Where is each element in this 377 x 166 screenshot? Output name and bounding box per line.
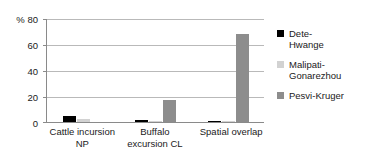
bar-dete-hwange-buffalo: [135, 120, 148, 122]
y-axis-label-0: 0: [33, 119, 38, 129]
y-axis-label-60: 60: [27, 41, 38, 51]
legend-item-pesvi-kruger: Pesvi-Kruger: [277, 90, 377, 101]
x-label-cattle-incursion-np: Cattle incursion NP: [46, 126, 119, 150]
x-label-buffalo-excursion-cl: Buffalo excursion CL: [119, 126, 192, 150]
bar-group-cattle-incursion-np: [47, 19, 120, 122]
legend-label-malipati-gonarezhou: Malipati- Gonarezhou: [289, 59, 341, 81]
bar-pesvi-kruger-overlap: [236, 34, 249, 122]
x-label-spatial-overlap: Spatial overlap: [191, 126, 271, 138]
bar-malipati-gonarezhou-buffalo: [149, 121, 162, 122]
bar-group-spatial-overlap: [192, 19, 265, 122]
bar-dete-hwange-overlap: [208, 121, 221, 122]
y-axis-label-20: 20: [27, 93, 38, 103]
bar-chart: % 80 60 40 20 0 Catt: [0, 0, 377, 166]
bar-dete-hwange-cattle: [63, 116, 76, 122]
legend-swatch-icon-dete-hwange: [277, 30, 284, 37]
legend-label-pesvi-kruger: Pesvi-Kruger: [289, 90, 344, 101]
y-axis-label-80: % 80: [16, 15, 38, 25]
legend-item-malipati-gonarezhou: Malipati- Gonarezhou: [277, 59, 377, 81]
legend-swatch-icon-malipati-gonarezhou: [277, 61, 284, 68]
bar-pesvi-kruger-buffalo: [163, 100, 176, 122]
y-axis-labels: % 80 60 40 20 0: [0, 0, 44, 166]
bar-malipati-gonarezhou-overlap: [222, 121, 235, 122]
y-axis-label-40: 40: [27, 67, 38, 77]
bar-group-buffalo-excursion-cl: [120, 19, 193, 122]
legend-swatch-icon-pesvi-kruger: [277, 92, 284, 99]
plot-area: [46, 19, 264, 123]
legend-item-dete-hwange: Dete- Hwange: [277, 28, 377, 50]
legend-label-dete-hwange: Dete- Hwange: [289, 28, 324, 50]
chart-legend: Dete- Hwange Malipati- Gonarezhou Pesvi-…: [277, 28, 377, 110]
y-tick-0: [43, 122, 47, 123]
bar-malipati-gonarezhou-cattle: [77, 119, 90, 122]
x-axis-labels: Cattle incursion NP Buffalo excursion CL…: [46, 126, 264, 164]
